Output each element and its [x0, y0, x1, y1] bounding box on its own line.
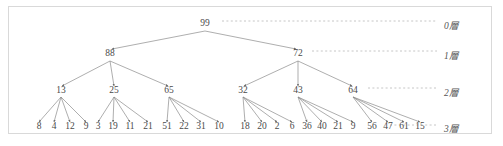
figure-frame — [8, 6, 492, 134]
tree-diagram-figure: 9988721325653243648412931911215122311018… — [0, 0, 503, 146]
